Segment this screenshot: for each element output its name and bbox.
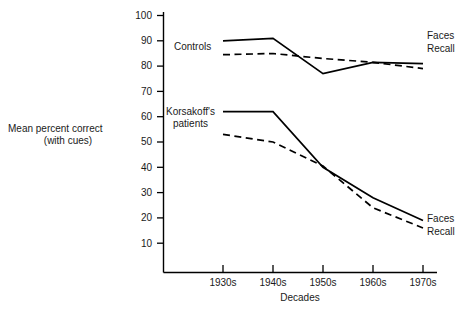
korsakoff-faces-label: Faces [427, 213, 454, 225]
x-tick-label-1970s: 1970s [401, 277, 445, 288]
y-tick-label-30: 30 [128, 187, 152, 198]
series-korsakoff-recall [223, 134, 423, 228]
controls-faces-label: Faces [427, 30, 454, 42]
line-chart-canvas [0, 0, 470, 311]
series-controls-faces [223, 38, 423, 73]
y-tick-label-60: 60 [128, 111, 152, 122]
controls-recall-label: Recall [427, 43, 455, 55]
korsakoff-recall-label: Recall [427, 226, 455, 238]
y-tick-label-50: 50 [128, 136, 152, 147]
korsakoff-group-label: Korsakoff's patients [166, 106, 215, 130]
y-axis-ticks [157, 16, 164, 244]
figure-container: 100 90 80 70 60 50 40 30 20 10 1930s 194… [0, 0, 470, 311]
figure-caption-cropped [0, 302, 470, 311]
y-axis-title-line1: Mean percent correct [8, 123, 128, 135]
y-tick-label-20: 20 [128, 212, 152, 223]
series-controls-recall [223, 54, 423, 69]
x-tick-label-1960s: 1960s [351, 277, 395, 288]
y-axis-title: Mean percent correct (with cues) [8, 123, 128, 147]
x-axis-ticks [223, 265, 423, 273]
y-tick-label-10: 10 [128, 238, 152, 249]
x-tick-label-1940s: 1940s [251, 277, 295, 288]
y-tick-label-100: 100 [128, 10, 152, 21]
x-tick-label-1950s: 1950s [301, 277, 345, 288]
y-tick-label-80: 80 [128, 60, 152, 71]
controls-group-label: Controls [174, 41, 211, 53]
x-tick-label-1930s: 1930s [201, 277, 245, 288]
y-tick-label-70: 70 [128, 86, 152, 97]
korsakoff-group-label-line2: patients [166, 118, 215, 130]
y-axis-title-line2: (with cues) [8, 135, 128, 147]
y-tick-label-90: 90 [128, 35, 152, 46]
y-tick-label-40: 40 [128, 162, 152, 173]
korsakoff-group-label-line1: Korsakoff's [166, 106, 215, 117]
